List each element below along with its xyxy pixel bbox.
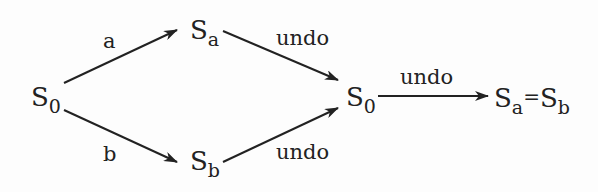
node-base: S bbox=[31, 82, 49, 112]
node-subscript: 0 bbox=[364, 95, 376, 117]
node-result: Sa=Sb bbox=[494, 84, 570, 120]
edge-label-undo-final: undo bbox=[400, 67, 453, 88]
edge-label-undo-lower: undo bbox=[276, 142, 329, 163]
undo-diagram: S0 Sa Sb S0 Sa=Sb a b undo undo undo bbox=[0, 0, 598, 192]
node-s0-end: S0 bbox=[346, 84, 376, 119]
node-subscript: a bbox=[208, 28, 219, 50]
node-subscript: b bbox=[208, 159, 220, 181]
node-base: S bbox=[494, 83, 512, 113]
node-base: S bbox=[346, 82, 364, 112]
node-subscript: a bbox=[512, 96, 523, 118]
edge-label-undo-upper: undo bbox=[276, 28, 329, 49]
node-base: S bbox=[540, 83, 558, 113]
node-subscript: 0 bbox=[49, 95, 61, 117]
node-s0-start: S0 bbox=[31, 84, 61, 119]
node-sb: Sb bbox=[190, 148, 220, 183]
edge-s0-to-sb bbox=[64, 110, 177, 162]
node-sa: Sa bbox=[190, 17, 219, 52]
edge-label-a: a bbox=[103, 31, 116, 52]
node-base: S bbox=[190, 146, 208, 176]
equals-sign: = bbox=[523, 85, 540, 109]
edge-label-b: b bbox=[103, 144, 116, 165]
edge-s0-to-sa bbox=[64, 30, 177, 83]
node-base: S bbox=[190, 15, 208, 45]
node-subscript: b bbox=[558, 96, 570, 118]
